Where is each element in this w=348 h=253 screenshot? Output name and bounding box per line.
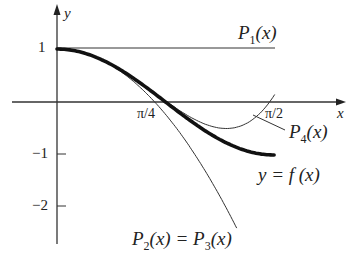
series-p2-p3 <box>57 49 237 228</box>
label-f: y = f (x) <box>258 165 320 184</box>
y-axis-label: y <box>64 6 71 21</box>
tick-label-m2: −2 <box>32 198 48 213</box>
tick-label-1: 1 <box>38 40 46 55</box>
label-p4: P4(x) <box>289 122 328 145</box>
x-axis-label: x <box>337 106 344 121</box>
tick-label-pi2: π/2 <box>265 107 283 121</box>
label-p2-p3: P2(x) = P3(x) <box>132 229 232 252</box>
tick-label-pi4: π/4 <box>137 107 155 121</box>
series-p4 <box>57 49 275 129</box>
tick-label-m1: −1 <box>32 146 48 161</box>
label-p1: P1(x) <box>238 23 277 46</box>
y-axis-arrow-icon <box>54 4 61 15</box>
